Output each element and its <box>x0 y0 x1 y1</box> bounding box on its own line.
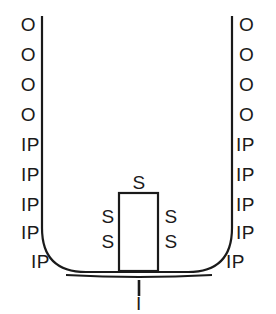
right-wall-label: IP <box>236 135 255 154</box>
left-wall-label: O <box>21 45 36 64</box>
right-wall-label: IP <box>236 195 255 214</box>
right-wall-label: O <box>239 15 254 34</box>
right-wall-label: IP <box>226 252 245 271</box>
obstacle-label-right-upper: S <box>164 207 177 226</box>
obstacle-label-left-lower: S <box>101 232 114 251</box>
right-wall-label: IP <box>236 165 255 184</box>
right-wall-label: O <box>239 105 254 124</box>
left-wall-label: IP <box>21 135 40 154</box>
left-wall-label: O <box>21 105 36 124</box>
left-wall-label: IP <box>21 195 40 214</box>
obstacle-label-right-lower: S <box>164 232 177 251</box>
right-wall-label: O <box>239 75 254 94</box>
left-wall-label: IP <box>31 252 50 271</box>
left-wall-label: O <box>21 75 36 94</box>
boundary-condition-diagram: O O O O IP IP IP IP IP O O O O IP IP IP … <box>0 0 276 314</box>
right-wall-label: O <box>239 45 254 64</box>
obstacle-label-left-upper: S <box>101 207 114 226</box>
inlet-label: I <box>136 294 142 313</box>
left-wall-label: IP <box>21 165 40 184</box>
left-wall-label: IP <box>21 223 40 242</box>
left-wall-label: O <box>21 15 36 34</box>
obstacle-label-top: S <box>132 173 145 192</box>
domain-floor-line <box>66 275 212 277</box>
central-obstacle-rect <box>119 193 158 271</box>
domain-u-shape-path <box>42 16 232 272</box>
right-wall-label: IP <box>236 223 255 242</box>
